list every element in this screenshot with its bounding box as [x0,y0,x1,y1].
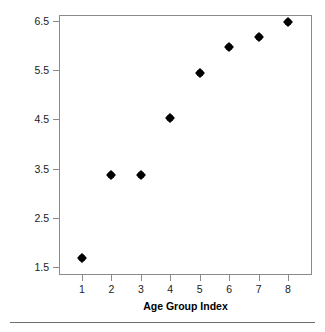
y-axis-tick [53,169,59,170]
x-axis-tick [170,275,171,281]
scatter-plot-figure: 1.52.53.54.55.56.5 12345678 Age Group In… [0,0,325,332]
x-axis-tick-label: 7 [246,283,272,295]
y-axis-tick-label: 1.5 [9,261,49,273]
x-axis-tick-label: 6 [216,283,242,295]
x-axis-tick-label: 1 [69,283,95,295]
x-axis-tick [200,275,201,281]
x-axis-tick [82,275,83,281]
x-axis-tick [111,275,112,281]
x-axis-tick-label: 3 [128,283,154,295]
y-axis-tick [53,21,59,22]
y-axis-tick-label: 2.5 [9,212,49,224]
x-axis-tick [259,275,260,281]
x-axis-tick-label: 8 [275,283,301,295]
plot-area [59,15,312,275]
x-axis-title: Age Group Index [59,300,312,312]
y-axis-tick-label: 4.5 [9,113,49,125]
x-axis-tick [288,275,289,281]
x-axis-tick [229,275,230,281]
y-axis-tick [53,119,59,120]
y-axis-tick-label: 5.5 [9,64,49,76]
x-axis-tick-label: 4 [157,283,183,295]
y-axis-tick-label: 3.5 [9,163,49,175]
x-axis-tick [141,275,142,281]
x-axis-tick-label: 2 [98,283,124,295]
x-axis-tick-label: 5 [187,283,213,295]
y-axis-tick [53,218,59,219]
footer-divider [10,322,315,323]
y-axis-tick [53,70,59,71]
y-axis-tick [53,267,59,268]
y-axis-tick-label: 6.5 [9,15,49,27]
